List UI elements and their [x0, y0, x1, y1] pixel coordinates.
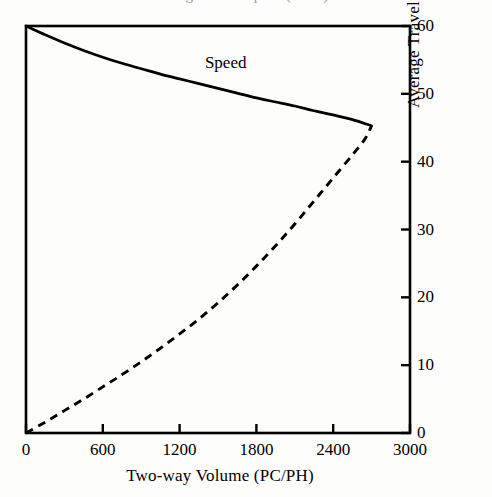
volume-speed-curve-dashed [26, 126, 372, 433]
y-axis-tick-label: 10 [417, 355, 434, 375]
y-axis-tick-label: 40 [417, 152, 434, 172]
x-axis-title: Two-way Volume (PC/PH) [0, 466, 440, 486]
y-axis-tick-label: 0 [417, 423, 426, 443]
x-axis-tick-label: 1200 [163, 440, 197, 460]
chart-figure: Average Travel Speed (MPH) 0600120018002… [0, 0, 492, 497]
y-axis-tick-label: 20 [417, 287, 434, 307]
speed-series-label: Speed [205, 53, 247, 73]
x-axis-tick-label: 0 [22, 440, 31, 460]
x-axis-tick-label: 1800 [239, 440, 273, 460]
x-axis-tick-label: 600 [90, 440, 116, 460]
y-axis-title: Average Travel Speed (MPH) [404, 0, 424, 108]
y-axis-tick-label: 30 [417, 220, 434, 240]
x-axis-ticks [26, 424, 410, 433]
speed-curve-solid [26, 26, 372, 126]
x-axis-tick-label: 2400 [316, 440, 350, 460]
x-axis-tick-label: 3000 [393, 440, 427, 460]
